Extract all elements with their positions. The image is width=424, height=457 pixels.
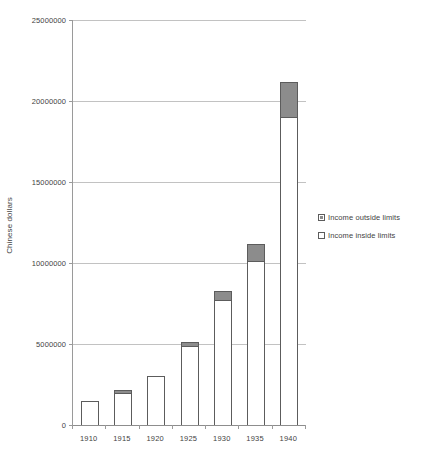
x-tick-mark [238, 425, 239, 429]
x-tick-label: 1915 [113, 434, 131, 443]
legend-entry[interactable]: Income inside limits [318, 231, 422, 240]
x-tick-label: 1930 [213, 434, 231, 443]
y-axis-title: Chinese dollars [0, 160, 18, 290]
bar-segment-outside-limits[interactable] [247, 244, 265, 262]
bar-stack[interactable] [147, 376, 165, 425]
x-tick-label: 1920 [146, 434, 164, 443]
bar-segment-inside-limits[interactable] [147, 376, 165, 425]
bar-segment-outside-limits[interactable] [214, 291, 232, 301]
x-tick-label: 1940 [280, 434, 298, 443]
x-axis: 1910191519201925193019351940 [72, 425, 306, 455]
x-tick-label: 1910 [80, 434, 98, 443]
y-tick-label: 20000000 [32, 97, 66, 106]
bar-stack[interactable] [181, 342, 199, 425]
bar-segment-inside-limits[interactable] [247, 261, 265, 425]
bar-segment-inside-limits[interactable] [181, 346, 199, 425]
bar-group[interactable] [147, 20, 165, 425]
bar-segment-inside-limits[interactable] [81, 401, 99, 425]
x-tick-mark [139, 425, 140, 429]
legend-label: Income outside limits [328, 213, 400, 222]
bar-stack[interactable] [81, 401, 99, 425]
x-tick-label: 1935 [246, 434, 264, 443]
bar-stack[interactable] [247, 244, 265, 425]
x-tick-mark [272, 425, 273, 429]
bar-segment-inside-limits[interactable] [214, 300, 232, 425]
chart-legend: Income outside limitsIncome inside limit… [318, 213, 422, 249]
y-tick-label: 5000000 [36, 340, 66, 349]
bars-layer [73, 20, 306, 425]
legend-swatch-outside [318, 214, 325, 221]
y-axis-title-label: Chinese dollars [5, 197, 14, 254]
bar-segment-inside-limits[interactable] [114, 393, 132, 425]
bar-group[interactable] [114, 20, 132, 425]
bar-stack[interactable] [114, 390, 132, 425]
x-tick-mark [72, 425, 73, 429]
bar-group[interactable] [280, 20, 298, 425]
x-tick-label: 1925 [180, 434, 198, 443]
x-tick-mark [205, 425, 206, 429]
x-tick-mark [172, 425, 173, 429]
legend-swatch-inside [318, 232, 325, 239]
income-stacked-bar-chart: Chinese dollars 050000001000000015000000… [0, 0, 424, 457]
y-tick-label: 10000000 [32, 259, 66, 268]
bar-stack[interactable] [214, 291, 232, 425]
y-tick-label: 25000000 [32, 16, 66, 25]
bar-segment-outside-limits[interactable] [280, 82, 298, 118]
bar-segment-inside-limits[interactable] [280, 117, 298, 425]
y-tick-label: 0 [62, 421, 66, 430]
plot-area: 0500000010000000150000002000000025000000 [72, 20, 306, 425]
x-tick-mark [105, 425, 106, 429]
x-tick-mark [305, 425, 306, 429]
bar-stack[interactable] [280, 82, 298, 425]
legend-entry[interactable]: Income outside limits [318, 213, 422, 222]
legend-label: Income inside limits [328, 231, 395, 240]
bar-group[interactable] [214, 20, 232, 425]
y-tick-label: 15000000 [32, 178, 66, 187]
bar-group[interactable] [247, 20, 265, 425]
bar-group[interactable] [81, 20, 99, 425]
bar-group[interactable] [181, 20, 199, 425]
